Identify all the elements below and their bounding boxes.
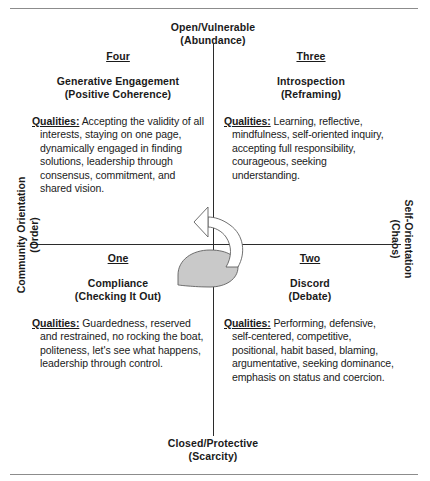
pole-bottom-line1: Closed/Protective — [168, 437, 258, 449]
pole-label-bottom: Closed/Protective (Scarcity) — [113, 437, 313, 463]
pole-right-line1: Self-Orientation — [402, 159, 415, 319]
quadrant-three-qualities-label: Qualities: — [224, 115, 271, 127]
quadrant-four-qualities-label: Qualities: — [32, 115, 79, 127]
quadrant-three-title-line2: (Reframing) — [281, 88, 341, 100]
quadrant-three-number: Three — [226, 50, 396, 62]
quadrant-two-qualities-label: Qualities: — [224, 317, 271, 329]
arrow-head — [194, 207, 208, 237]
quadrant-four-number: Four — [32, 50, 204, 62]
quadrant-four-title-line2: (Positive Coherence) — [65, 88, 171, 100]
quadrant-four-title: Generative Engagement (Positive Coherenc… — [32, 75, 204, 101]
quadrant-two-qualities: Qualities: Performing, defensive, self-c… — [224, 317, 396, 384]
clipped-top-caption — [10, 0, 418, 5]
quadrant-three-qualities: Qualities: Learning, reflective, mindful… — [224, 115, 396, 182]
pole-left-line1: Community Orientation — [15, 155, 28, 315]
quadrant-four-title-line1: Generative Engagement — [57, 75, 179, 87]
quadrant-two-title-line2: (Debate) — [289, 290, 332, 302]
arrow-ribbon-lower — [178, 250, 238, 287]
frame-rule-top — [10, 8, 418, 9]
pole-top-line2: (Abundance) — [180, 34, 245, 46]
quadrant-two-title-line1: Discord — [290, 277, 330, 289]
spiral-progression-arrow — [176, 205, 260, 295]
pole-top-line1: Open/Vulnerable — [171, 21, 256, 33]
frame-rule-bottom — [10, 474, 418, 475]
quadrant-one-title-line1: Compliance — [88, 277, 149, 289]
quadrant-four-qualities: Qualities: Accepting the validity of all… — [32, 115, 204, 195]
quadrant-one-qualities: Qualities: Guardedness, reserved and res… — [32, 317, 204, 371]
quadrant-diagram: Open/Vulnerable (Abundance) Closed/Prote… — [0, 0, 430, 481]
quadrant-one-qualities-label: Qualities: — [32, 317, 79, 329]
pole-label-top: Open/Vulnerable (Abundance) — [113, 21, 313, 47]
quadrant-one-title-line2: (Checking It Out) — [75, 290, 161, 302]
pole-bottom-line2: (Scarcity) — [189, 450, 238, 462]
quadrant-three-title: Introspection (Reframing) — [226, 75, 396, 101]
quadrant-three-title-line1: Introspection — [277, 75, 345, 87]
